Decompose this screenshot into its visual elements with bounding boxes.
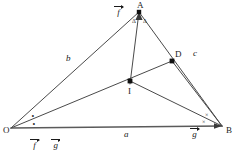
vertex-label-O: O	[3, 126, 10, 135]
caption-vector-f-arrow-icon	[30, 139, 39, 140]
side-label-c: c	[193, 49, 197, 58]
angle-mark-O-upper: ∘	[31, 112, 35, 118]
caption-vector-label-f: f	[30, 139, 39, 150]
vertex-label-I: I	[128, 87, 131, 96]
side-label-a: a	[124, 130, 129, 139]
angle-mark-O-lower: ∘	[32, 120, 36, 126]
caption-separator: ,	[43, 147, 47, 153]
caption-vectors: f , g	[30, 139, 60, 153]
vertex-label-B: B	[226, 126, 232, 135]
angle-mark-B-upper: ×	[205, 112, 208, 118]
point-D	[170, 59, 175, 64]
caption-vector-f-glyph: f	[30, 141, 39, 150]
bisector-O-to-D	[11, 61, 172, 128]
caption-vector-label-g: g	[51, 139, 60, 150]
caption-vector-g-arrow-icon	[51, 139, 60, 140]
vertex-label-A: A	[137, 1, 144, 10]
vector-f-glyph: f	[114, 8, 123, 17]
figure-canvas	[0, 0, 238, 153]
caption-vector-g-glyph: g	[51, 141, 60, 150]
vector-label-f: f	[114, 6, 123, 17]
angle-mark-A-left: Δ	[132, 18, 136, 24]
vertex-label-D: D	[175, 50, 182, 59]
geometry-figure: A O B D I b a c Δ Δ ∘ ∘ × × f g f , g	[0, 0, 238, 153]
vector-g-arrow-icon	[190, 128, 199, 129]
side-label-b: b	[66, 54, 71, 63]
side-OA	[11, 12, 139, 128]
angle-mark-B-lower: ×	[202, 119, 205, 125]
segment-D-to-B	[172, 61, 222, 126]
side-AB	[139, 12, 222, 126]
vector-f-arrow-icon	[114, 6, 123, 7]
angle-mark-A-right: Δ	[143, 18, 147, 24]
point-A-dot	[137, 10, 141, 14]
vector-label-g: g	[190, 128, 199, 139]
point-I	[128, 79, 133, 84]
segment-I-to-B	[130, 81, 222, 126]
vector-g-glyph: g	[190, 130, 199, 139]
